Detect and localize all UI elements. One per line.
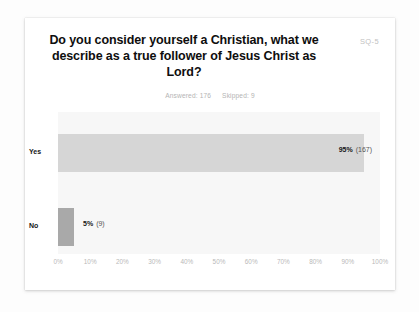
x-tick-60: 60% bbox=[245, 258, 258, 265]
screenshot-root: Do you consider yourself a Christian, wh… bbox=[0, 0, 419, 312]
x-tick-30: 30% bbox=[148, 258, 161, 265]
bar-count-no: (9) bbox=[96, 220, 105, 227]
x-axis: 0% 10% 20% 30% 40% 50% 60% 70% 80% 90% 1… bbox=[58, 258, 380, 272]
skipped-count: Skipped: 9 bbox=[222, 92, 255, 99]
x-tick-90: 90% bbox=[341, 258, 354, 265]
x-tick-70: 70% bbox=[277, 258, 290, 265]
bar-row-yes: 95%(167) bbox=[58, 134, 380, 172]
bar-row-no: 5%(9) bbox=[58, 208, 380, 246]
answered-count: Answered: 176 bbox=[165, 92, 211, 99]
x-tick-40: 40% bbox=[180, 258, 193, 265]
x-tick-100: 100% bbox=[372, 258, 388, 265]
x-tick-20: 20% bbox=[116, 258, 129, 265]
x-tick-50: 50% bbox=[213, 258, 226, 265]
x-tick-10: 10% bbox=[84, 258, 97, 265]
bar-percent-no: 5% bbox=[83, 220, 93, 227]
bar-count-yes: (167) bbox=[356, 146, 372, 153]
bar-chart-plot-area: 95%(167) 5%(9) bbox=[58, 112, 380, 254]
question-code-badge: SQ-5 bbox=[360, 37, 379, 46]
bar-value-no: 5%(9) bbox=[83, 220, 105, 227]
x-tick-80: 80% bbox=[309, 258, 322, 265]
category-label-no: No bbox=[29, 222, 38, 229]
category-label-yes: Yes bbox=[29, 148, 41, 155]
x-tick-0: 0% bbox=[53, 258, 62, 265]
page-title: Do you consider yourself a Christian, wh… bbox=[39, 32, 329, 80]
bar-value-yes: 95%(167) bbox=[339, 146, 372, 153]
response-counts: Answered: 176 Skipped: 9 bbox=[25, 92, 395, 99]
bar-percent-yes: 95% bbox=[339, 146, 353, 153]
bar-no[interactable] bbox=[58, 208, 74, 246]
bar-yes[interactable] bbox=[58, 134, 364, 172]
survey-result-card: Do you consider yourself a Christian, wh… bbox=[25, 18, 395, 290]
